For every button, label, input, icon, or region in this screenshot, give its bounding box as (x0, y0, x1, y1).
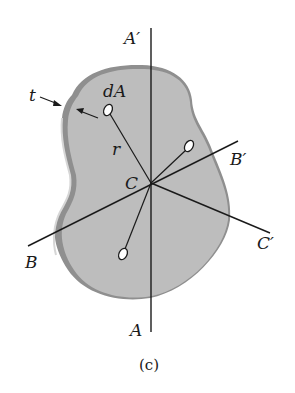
label-axis-b-left: B (24, 252, 38, 272)
label-area-element: dA (103, 81, 126, 101)
area-moment-diagram: t dA r C A′ A B B′ C′ (c) (0, 0, 295, 393)
label-axis-b-right: B′ (229, 149, 246, 169)
figure-caption: (c) (139, 356, 159, 374)
label-centroid: C (125, 173, 138, 193)
arrow-head-outer-icon (53, 100, 62, 106)
label-thickness: t (29, 85, 36, 105)
plate-face (62, 69, 228, 298)
label-axis-a-top: A′ (122, 28, 140, 48)
diagram-canvas: t dA r C A′ A B B′ C′ (c) (0, 0, 295, 393)
label-axis-a-bottom: A (128, 320, 142, 340)
label-radius: r (112, 139, 121, 159)
label-axis-c-right: C′ (257, 233, 274, 253)
